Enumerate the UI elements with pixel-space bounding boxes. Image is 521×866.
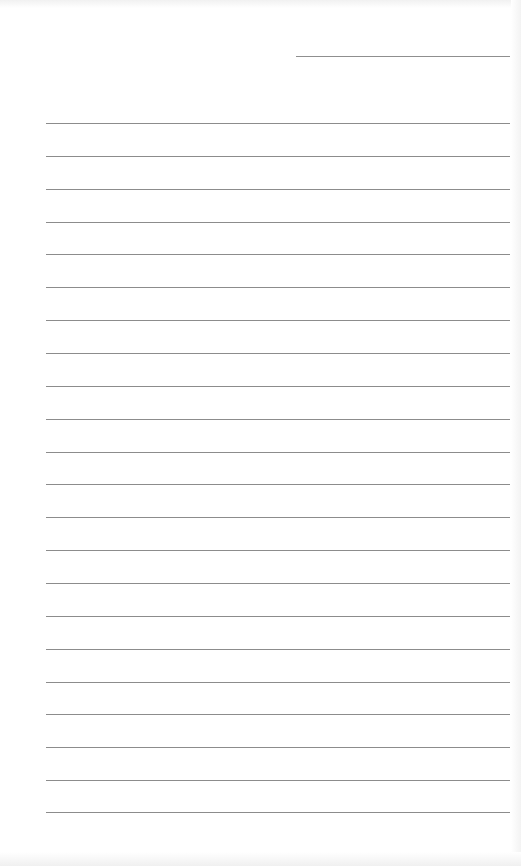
ruled-line [46,189,510,190]
top-edge-shadow [0,0,521,8]
ruled-line [46,287,510,288]
ruled-line [46,812,510,813]
bottom-edge-shadow [0,852,521,866]
ruled-line [46,583,510,584]
header-name-line [296,56,510,57]
ruled-line [46,616,510,617]
ruled-line [46,747,510,748]
ruled-line [46,222,510,223]
ruled-line [46,517,510,518]
ruled-line [46,780,510,781]
ruled-line [46,320,510,321]
ruled-line [46,419,510,420]
right-edge-shadow [511,0,521,866]
ruled-line [46,550,510,551]
ruled-line [46,452,510,453]
ruled-line [46,123,510,124]
ruled-line [46,714,510,715]
ruled-line [46,649,510,650]
ruled-line [46,484,510,485]
ruled-line [46,254,510,255]
lined-paper-page [0,0,521,866]
ruled-line [46,386,510,387]
ruled-line [46,682,510,683]
ruled-line [46,353,510,354]
ruled-line [46,156,510,157]
